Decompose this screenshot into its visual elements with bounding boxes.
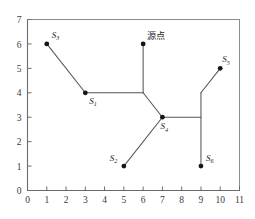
node-dot-S3 [44,42,49,47]
network-edges [47,44,220,166]
plot-frame [27,20,240,191]
node-dot-S2 [121,164,126,169]
node-dot-S6 [199,164,204,169]
node-dot-S1 [83,90,88,95]
steiner-network-chart: 01234567891011 01234567 S1S2S3S4S5S6源点 [0,0,255,219]
y-tick-label: 2 [17,137,22,147]
node-label-S6: S6 [206,153,215,164]
figure-canvas: 01234567891011 01234567 S1S2S3S4S5S6源点 [0,0,255,219]
node-label-S4: S4 [160,121,168,132]
source-point-label: 源点 [147,31,165,41]
x-tick-label: 6 [141,195,146,205]
node-label-S5: S5 [222,54,230,65]
x-tick-label: 10 [215,195,225,205]
x-tick-label: 3 [83,195,88,205]
network-nodes: S1S2S3S4S5S6源点 [44,30,229,169]
x-tick-label: 5 [121,195,126,205]
y-tick-label: 0 [17,186,22,196]
y-tick-label: 7 [17,15,22,25]
node-label-S1: S1 [89,96,97,107]
edge-S3-S1 [47,44,86,93]
x-tick-label: 2 [64,195,69,205]
edge-P1-S4 [143,93,162,117]
x-axis-ticks: 01234567891011 [25,187,244,205]
edge-S2-S4 [124,117,163,166]
node-dot-S5 [218,66,223,71]
edge-P3-S5 [201,68,220,92]
y-axis-ticks: 01234567 [17,15,32,196]
x-tick-label: 7 [160,195,165,205]
x-tick-label: 8 [179,195,184,205]
node-dot-S4 [160,115,165,120]
y-tick-label: 5 [17,64,22,74]
node-label-S2: S2 [110,153,118,164]
y-tick-label: 6 [17,40,22,50]
y-tick-label: 4 [17,88,22,98]
x-tick-label: 0 [25,195,30,205]
y-tick-label: 1 [17,162,22,172]
x-tick-label: 9 [199,195,204,205]
x-tick-label: 11 [235,195,244,205]
x-tick-label: 1 [44,195,49,205]
y-tick-label: 3 [17,113,22,123]
x-tick-label: 4 [102,195,107,205]
node-dot-SRC [141,42,146,47]
node-label-S3: S3 [52,30,60,41]
